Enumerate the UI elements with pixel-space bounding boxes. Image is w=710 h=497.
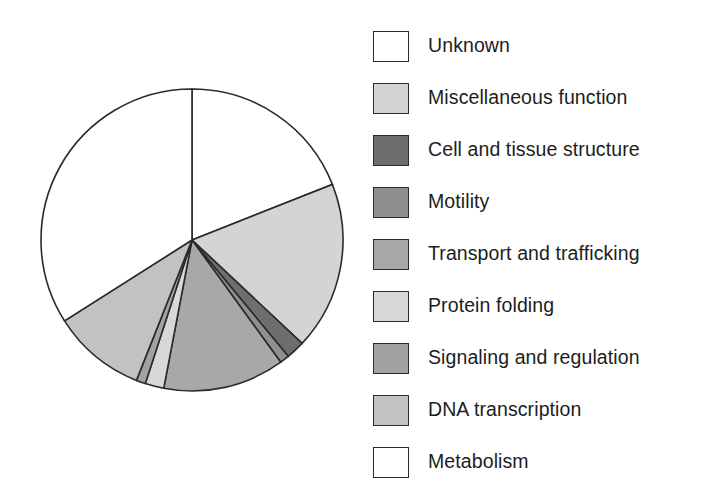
- legend-swatch-miscellaneous-function: [373, 83, 409, 114]
- pie-slice-group: [41, 89, 343, 391]
- legend-item-label: Motility: [428, 192, 489, 212]
- legend-item: DNA transcription: [373, 384, 703, 436]
- legend-item-label: Unknown: [428, 36, 510, 56]
- legend-item: Metabolism: [373, 436, 703, 488]
- pie-chart: [0, 0, 380, 497]
- legend-item: Protein folding: [373, 280, 703, 332]
- legend-item: Cell and tissue structure: [373, 124, 703, 176]
- legend-swatch-motility: [373, 187, 409, 218]
- legend-swatch-protein-folding: [373, 291, 409, 322]
- legend-item: Miscellaneous function: [373, 72, 703, 124]
- legend-item-label: Metabolism: [428, 452, 529, 472]
- legend-item-label: Signaling and regulation: [428, 348, 640, 368]
- legend-item-label: Protein folding: [428, 296, 554, 316]
- legend-swatch-transport-and-trafficking: [373, 239, 409, 270]
- legend-swatch-dna-transcription: [373, 395, 409, 426]
- legend-swatch-metabolism: [373, 447, 409, 478]
- legend-item-label: Cell and tissue structure: [428, 140, 640, 160]
- legend-item: Motility: [373, 176, 703, 228]
- legend-swatch-signaling-and-regulation: [373, 343, 409, 374]
- legend-swatch-cell-and-tissue-structure: [373, 135, 409, 166]
- legend-swatch-unknown: [373, 31, 409, 62]
- legend-item: Signaling and regulation: [373, 332, 703, 384]
- legend-item-label: Transport and trafficking: [428, 244, 640, 264]
- legend-item: Transport and trafficking: [373, 228, 703, 280]
- legend-item: Unknown: [373, 20, 703, 72]
- chart-legend: UnknownMiscellaneous functionCell and ti…: [373, 20, 703, 488]
- legend-item-label: DNA transcription: [428, 400, 581, 420]
- pie-chart-figure: UnknownMiscellaneous functionCell and ti…: [0, 0, 710, 497]
- legend-item-label: Miscellaneous function: [428, 88, 627, 108]
